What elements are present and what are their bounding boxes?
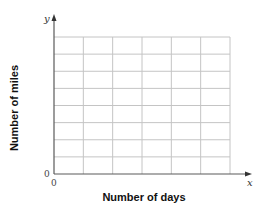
x-axis-variable: x bbox=[247, 177, 253, 188]
y-axis-variable: y bbox=[43, 13, 50, 24]
x-axis-title: Number of days bbox=[102, 191, 185, 203]
blank-graph: y x 0 0 Number of miles Number of days bbox=[0, 0, 263, 209]
x-origin-label: 0 bbox=[51, 178, 57, 188]
y-axis-title: Number of miles bbox=[8, 65, 20, 151]
x-axis-arrow-icon bbox=[245, 172, 252, 177]
y-origin-label: 0 bbox=[44, 169, 50, 179]
grid bbox=[54, 37, 230, 174]
y-axis-arrow-icon bbox=[52, 14, 57, 21]
